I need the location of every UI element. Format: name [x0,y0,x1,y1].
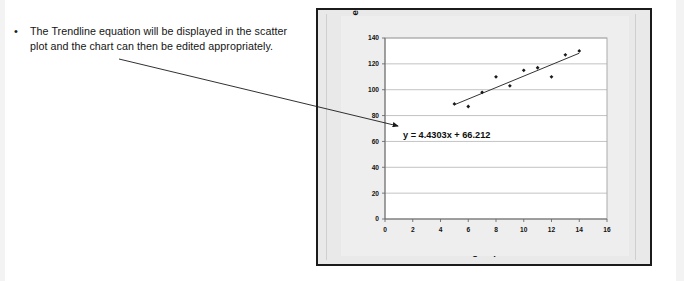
svg-text:10: 10 [520,226,528,233]
svg-text:60: 60 [372,138,380,145]
y-axis-ticks: 020406080100120140 [368,34,385,222]
svg-text:20: 20 [372,190,380,197]
svg-text:12: 12 [548,226,556,233]
svg-text:16: 16 [603,226,611,233]
svg-text:120: 120 [368,60,379,67]
list-item: • The Trendline equation will be display… [14,24,306,54]
trendline-equation-label: y = 4.4303x + 66.212 [403,130,490,140]
svg-text:0: 0 [375,215,379,222]
scatter-plot[interactable]: 020406080100120140 0246810121416 y = 4.4… [341,16,625,254]
bullet-icon: • [14,24,30,39]
svg-text:2: 2 [411,226,415,233]
chart-container[interactable]: Sales Volume Advertising Expenditure 020… [316,8,652,266]
svg-text:0: 0 [383,226,387,233]
svg-text:8: 8 [494,226,498,233]
svg-text:140: 140 [368,34,379,41]
plot-background [385,38,607,219]
bullet-list: • The Trendline equation will be display… [14,24,306,54]
svg-text:4: 4 [439,226,443,233]
svg-text:6: 6 [466,226,470,233]
svg-text:100: 100 [368,86,379,93]
x-axis-ticks: 0246810121416 [383,219,611,233]
svg-text:80: 80 [372,112,380,119]
svg-text:14: 14 [576,226,584,233]
scan-artifact-left [0,0,5,281]
svg-text:40: 40 [372,164,380,171]
chart-inner-panel: Sales Volume Advertising Expenditure 020… [326,14,636,260]
scan-artifact-right [676,0,684,281]
bullet-item-label: The Trendline equation will be displayed… [30,24,306,54]
plot-area-wrapper: 020406080100120140 0246810121416 y = 4.4… [341,16,629,256]
